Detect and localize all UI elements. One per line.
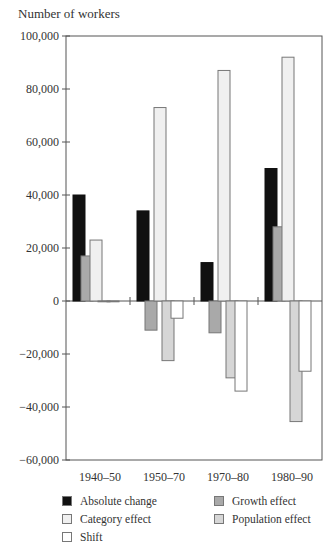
y-tick-label: −40,000	[19, 400, 59, 414]
bar-category-effect	[282, 57, 294, 301]
bar-growth-effect	[145, 301, 157, 330]
legend-item: Population effect	[214, 513, 311, 525]
legend-item: Absolute change	[62, 495, 157, 507]
y-tick-label: 80,000	[26, 82, 59, 96]
bar-category-effect	[154, 108, 166, 301]
bar-shift	[107, 301, 119, 302]
x-category-label: 1970–80	[207, 470, 249, 484]
bar-shift	[171, 301, 183, 318]
legend-swatch	[62, 496, 72, 506]
bar-growth-effect	[209, 301, 221, 333]
legend-label: Category effect	[80, 513, 151, 525]
bar-shift	[235, 301, 247, 391]
legend-item: Growth effect	[214, 495, 296, 507]
legend-swatch	[62, 514, 72, 524]
bar-chart: −60,000−40,000−20,000020,00040,00060,000…	[0, 0, 333, 490]
legend-label: Population effect	[232, 513, 311, 525]
legend-swatch	[62, 532, 72, 542]
y-tick-label: −60,000	[19, 453, 59, 467]
y-tick-label: 60,000	[26, 135, 59, 149]
x-category-label: 1980–90	[271, 470, 313, 484]
legend-swatch	[214, 514, 224, 524]
bar-absolute-change	[201, 263, 213, 301]
bar-shift	[299, 301, 311, 371]
x-category-label: 1940–50	[79, 470, 121, 484]
bar-absolute-change	[137, 211, 149, 301]
legend-label: Absolute change	[80, 495, 157, 507]
bar-category-effect	[218, 70, 230, 301]
legend-label: Growth effect	[232, 495, 296, 507]
y-tick-label: 40,000	[26, 188, 59, 202]
y-tick-label: 20,000	[26, 241, 59, 255]
x-category-label: 1950–70	[143, 470, 185, 484]
y-tick-label: 100,000	[20, 29, 59, 43]
legend-label: Shift	[80, 531, 102, 543]
bar-category-effect	[90, 240, 102, 301]
y-tick-label: −20,000	[19, 347, 59, 361]
legend-item: Shift	[62, 531, 102, 543]
legend-item: Category effect	[62, 513, 151, 525]
legend-swatch	[214, 496, 224, 506]
y-tick-label: 0	[53, 294, 59, 308]
